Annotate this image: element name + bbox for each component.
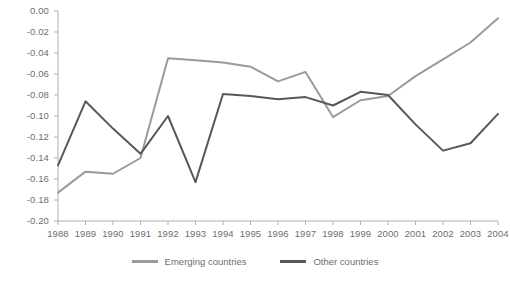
legend-color-swatch	[132, 260, 158, 263]
line-chart-plot	[0, 0, 510, 284]
legend-item[interactable]: Other countries	[280, 256, 378, 267]
legend-label: Emerging countries	[165, 256, 247, 267]
y-axis-tick-label: -0.20	[0, 215, 49, 226]
y-axis-tick-label: -0.04	[0, 47, 49, 58]
y-axis-tick-label: -0.14	[0, 152, 49, 163]
data-series	[58, 18, 498, 192]
y-axis-tick-label: -0.18	[0, 194, 49, 205]
chart-legend: Emerging countriesOther countries	[0, 250, 510, 272]
series-line-other-countries	[58, 92, 498, 182]
legend-item[interactable]: Emerging countries	[132, 256, 247, 267]
series-line-emerging-countries	[58, 18, 498, 192]
axes	[54, 11, 498, 225]
y-axis-tick-label: 0.00	[0, 5, 49, 16]
y-axis-tick-label: -0.16	[0, 173, 49, 184]
x-axis-tick-label: 2004	[481, 228, 510, 239]
y-axis-tick-label: -0.02	[0, 26, 49, 37]
y-axis-tick-label: -0.12	[0, 131, 49, 142]
legend-label: Other countries	[313, 256, 378, 267]
y-axis-tick-label: -0.08	[0, 89, 49, 100]
y-axis-tick-label: -0.06	[0, 68, 49, 79]
y-axis-tick-label: -0.10	[0, 110, 49, 121]
legend-color-swatch	[280, 260, 306, 263]
chart-figure: 0.00-0.02-0.04-0.06-0.08-0.10-0.12-0.14-…	[0, 0, 510, 284]
